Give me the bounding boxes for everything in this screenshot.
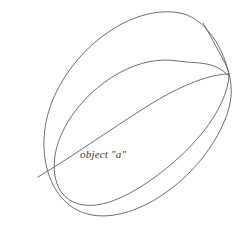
diagonal-chord-path bbox=[38, 74, 229, 177]
outer-ellipse-path bbox=[44, 12, 231, 216]
figure-canvas: object "a" bbox=[0, 0, 250, 235]
object-a-line-drawing bbox=[0, 0, 250, 235]
inner-ellipse-path bbox=[54, 60, 229, 205]
object-label: object "a" bbox=[80, 148, 126, 161]
